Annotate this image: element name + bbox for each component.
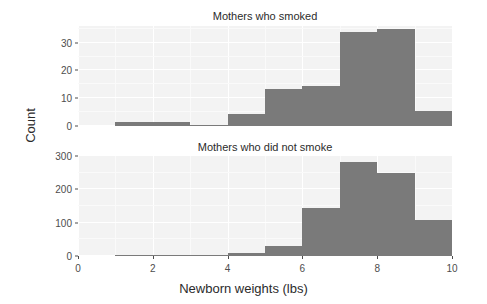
y-tick-mark [75, 126, 78, 127]
histogram-chart: Count Mothers who smoked Mothers who did… [0, 0, 487, 304]
y-tick-label: 300 [2, 151, 72, 162]
x-tick-mark [78, 256, 79, 259]
x-tick-label: 0 [58, 263, 98, 274]
y-tick-mark [75, 42, 78, 43]
y-tick-label: 30 [2, 37, 72, 48]
x-tick-mark [377, 256, 378, 259]
y-tick-label: 200 [2, 184, 72, 195]
y-tick-label: 20 [2, 65, 72, 76]
y-tick-mark [75, 98, 78, 99]
y-tick-mark [75, 222, 78, 223]
x-tick-mark [302, 256, 303, 259]
y-tick-label: 0 [2, 251, 72, 262]
x-tick-mark [153, 256, 154, 259]
axes-layer: 010203001002003000246810 [0, 0, 487, 304]
y-tick-mark [75, 70, 78, 71]
x-tick-mark [228, 256, 229, 259]
x-tick-label: 2 [133, 263, 173, 274]
y-tick-mark [75, 156, 78, 157]
x-tick-label: 4 [208, 263, 248, 274]
y-tick-label: 100 [2, 217, 72, 228]
x-tick-mark [452, 256, 453, 259]
y-tick-label: 10 [2, 93, 72, 104]
x-tick-label: 6 [282, 263, 322, 274]
x-tick-label: 10 [432, 263, 472, 274]
y-tick-mark [75, 189, 78, 190]
y-tick-label: 0 [2, 121, 72, 132]
x-axis-label: Newborn weights (lbs) [0, 281, 487, 296]
x-tick-label: 8 [357, 263, 397, 274]
